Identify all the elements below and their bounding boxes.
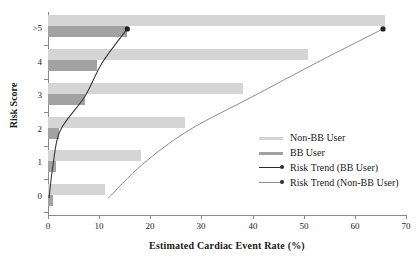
- legend-swatch-icon: [258, 146, 284, 160]
- x-tick-label: 70: [391, 221, 419, 231]
- legend-line-marker-icon: [258, 176, 284, 190]
- x-tick-label: 10: [84, 221, 114, 231]
- trend-endpoint-bb-user: [125, 26, 130, 31]
- y-tick-label: 0: [16, 191, 42, 201]
- y-tick-label: 3: [16, 90, 42, 100]
- x-axis-tick: [253, 215, 254, 219]
- legend-item-risk-trend-non-bb: Risk Trend (Non-BB User): [258, 175, 418, 190]
- x-axis-tick: [201, 215, 202, 219]
- legend-label: Risk Trend (Non-BB User): [290, 177, 399, 189]
- legend-label: Non-BB User: [290, 132, 345, 144]
- legend-line-marker-icon: [258, 161, 284, 175]
- x-tick-label: 40: [238, 221, 268, 231]
- x-tick-label: 50: [289, 221, 319, 231]
- y-tick-label: 4: [16, 57, 42, 67]
- x-axis-tick: [150, 215, 151, 219]
- legend-label: Risk Trend (BB User): [290, 162, 378, 174]
- y-tick-label: >5: [16, 23, 42, 33]
- legend-label: BB User: [290, 147, 325, 159]
- x-tick-label: 20: [135, 221, 165, 231]
- x-axis-title: Estimated Cardiac Event Rate (%): [48, 240, 406, 251]
- legend-item-non-bb-user: Non-BB User: [258, 130, 418, 145]
- x-tick-label: 0: [33, 221, 63, 231]
- cardiac-risk-chart: Risk Score >5 4 3 2 1 0 0 10 20 30 40 50…: [0, 0, 419, 269]
- chart-legend: Non-BB User BB User Risk Trend (BB User)…: [258, 130, 418, 190]
- x-tick-label: 30: [186, 221, 216, 231]
- x-axis-tick: [304, 215, 305, 219]
- legend-item-bb-user: BB User: [258, 145, 418, 160]
- x-axis-tick: [355, 215, 356, 219]
- x-tick-label: 60: [340, 221, 370, 231]
- trend-endpoint-non-bb-user: [380, 26, 385, 31]
- y-tick-label: 2: [16, 124, 42, 134]
- x-axis-tick: [99, 215, 100, 219]
- legend-item-risk-trend-bb: Risk Trend (BB User): [258, 160, 418, 175]
- legend-swatch-icon: [258, 131, 284, 145]
- y-tick-label: 1: [16, 157, 42, 167]
- x-axis-line: [48, 215, 406, 216]
- x-axis-tick: [48, 215, 49, 219]
- trend-line-bb-user: [49, 29, 127, 198]
- x-axis-tick: [406, 215, 407, 219]
